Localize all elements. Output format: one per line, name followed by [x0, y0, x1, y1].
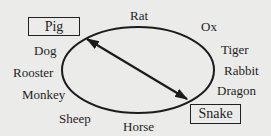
- snake-box: Snake: [190, 104, 241, 124]
- double-arrow: [87, 39, 187, 99]
- pig-box: Pig: [28, 17, 80, 36]
- label-horse: Horse: [123, 120, 154, 133]
- label-monkey: Monkey: [22, 88, 65, 101]
- label-ox: Ox: [201, 20, 217, 33]
- label-sheep: Sheep: [59, 112, 91, 125]
- label-dog: Dog: [34, 44, 56, 57]
- label-rooster: Rooster: [13, 66, 53, 79]
- label-snake: Snake: [198, 106, 232, 122]
- label-tiger: Tiger: [221, 43, 249, 56]
- zodiac-diagram: Pig Rat Ox Tiger Rabbit Dragon Snake Hor…: [0, 0, 271, 136]
- label-dragon: Dragon: [217, 84, 256, 97]
- label-pig: Pig: [45, 19, 64, 35]
- label-rabbit: Rabbit: [224, 64, 259, 77]
- label-rat: Rat: [130, 9, 148, 22]
